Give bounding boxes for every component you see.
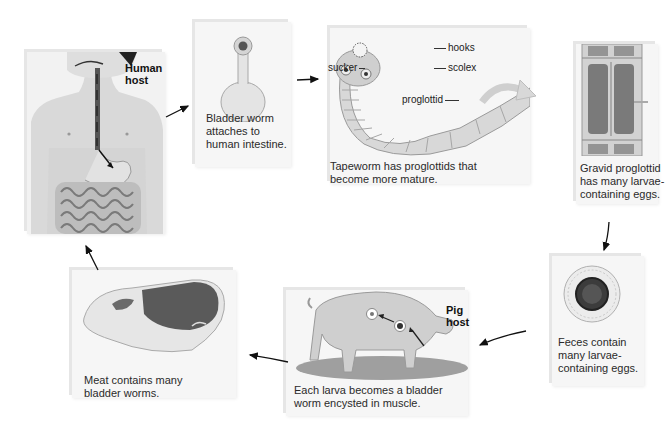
arrow-human-to-bladder-worm	[166, 106, 188, 117]
arrow-bladder-worm-to-tapeworm	[297, 79, 318, 80]
arrow-pig-to-meat	[250, 355, 288, 362]
arrow-gravid-to-feces	[604, 222, 609, 250]
arrow-feces-to-pig	[480, 331, 526, 345]
arrow-meat-to-human	[86, 246, 98, 270]
